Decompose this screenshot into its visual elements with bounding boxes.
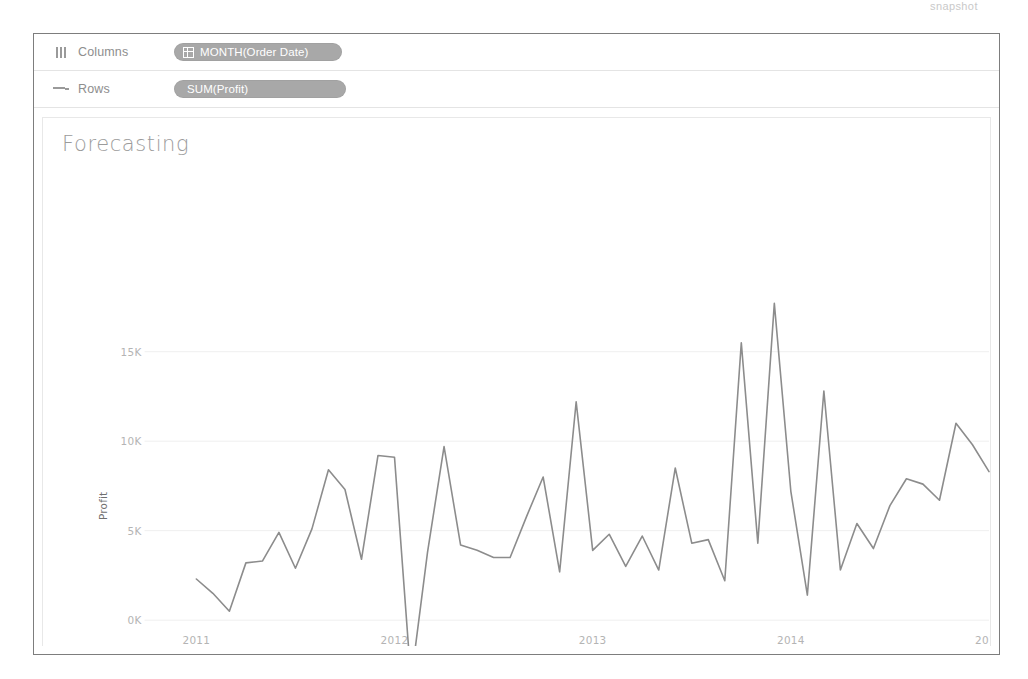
pill-month-order-date[interactable]: MONTH(Order Date) bbox=[174, 43, 342, 61]
series-line-sum-profit bbox=[196, 303, 989, 646]
worksheet-pane: Forecasting 0K5K10K15KProfit201120122013… bbox=[42, 117, 991, 646]
y-tick-label: 0K bbox=[127, 614, 142, 626]
rows-icon bbox=[53, 82, 69, 96]
pill-sum-profit-label: SUM(Profit) bbox=[187, 83, 248, 95]
rows-shelf[interactable]: Rows SUM(Profit) bbox=[34, 71, 999, 108]
y-tick-label: 10K bbox=[121, 435, 143, 447]
pill-month-order-date-label: MONTH(Order Date) bbox=[200, 46, 308, 58]
rows-shelf-label: Rows bbox=[78, 82, 174, 96]
x-tick-label: 2011 bbox=[182, 634, 210, 646]
x-tick-label: 2012 bbox=[381, 634, 409, 646]
columns-shelf-label: Columns bbox=[78, 45, 174, 59]
columns-shelf[interactable]: Columns MONTH(Order Date) bbox=[34, 34, 999, 71]
x-tick-label: 2014 bbox=[777, 634, 805, 646]
y-tick-label: 5K bbox=[127, 525, 142, 537]
x-tick-label: 2013 bbox=[579, 634, 607, 646]
line-chart: 0K5K10K15KProfit20112012201320142015Mont… bbox=[43, 118, 990, 646]
columns-icon bbox=[53, 45, 69, 59]
y-axis-title: Profit bbox=[97, 492, 109, 520]
x-tick-label: 2015 bbox=[975, 634, 990, 646]
top-bleed-text: snapshot bbox=[930, 0, 1020, 14]
pill-sum-profit[interactable]: SUM(Profit) bbox=[174, 80, 346, 98]
calendar-glyph-icon bbox=[183, 47, 194, 58]
y-tick-label: 15K bbox=[121, 346, 143, 358]
viz-window: Columns MONTH(Order Date) Rows SUM(Profi… bbox=[33, 33, 1000, 655]
shelf-area: Columns MONTH(Order Date) Rows SUM(Profi… bbox=[34, 34, 999, 108]
